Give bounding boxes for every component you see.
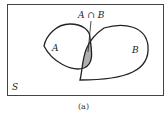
universe-label: S bbox=[12, 82, 18, 92]
set-a-label: A bbox=[51, 43, 59, 53]
figure-caption: (a) bbox=[78, 102, 89, 111]
set-b-label: B bbox=[131, 45, 139, 55]
venn-diagram: A ∩ B A B S (a) bbox=[0, 0, 168, 113]
intersection-label: A ∩ B bbox=[77, 10, 105, 20]
